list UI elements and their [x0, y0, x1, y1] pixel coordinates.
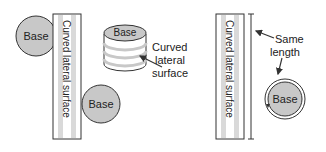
cylinder-annotation-line-1: Curved: [152, 41, 187, 53]
right-annotation-line-1: Same: [275, 33, 304, 45]
right-base-label: Base: [272, 93, 297, 105]
right-net: Curved lateral surface Same length Base: [216, 14, 305, 139]
cylinder: Base Curved lateral surface: [104, 25, 188, 79]
cylinder-annotation-line-3: surface: [152, 67, 188, 79]
right-strip-label: Curved lateral surface: [224, 20, 235, 118]
strip-label: Curved lateral surface: [61, 20, 72, 118]
cylinder-annotation-line-2: lateral: [155, 54, 185, 66]
right-annotation-line-2: length: [270, 46, 300, 58]
top-base-label: Base: [23, 30, 48, 42]
bottom-base-label: Base: [88, 98, 113, 110]
cylinder-base-label: Base: [114, 27, 137, 38]
cylinder-net-diagram: Base Base Curved lateral surface Base Cu…: [0, 0, 326, 152]
